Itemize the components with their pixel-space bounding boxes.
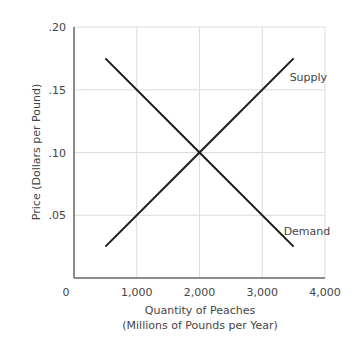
x-axis-label-units: (Millions of Pounds per Year) [122, 319, 278, 332]
y-tick-label: .05 [49, 209, 67, 222]
x-tick-label: 2,000 [184, 286, 216, 299]
x-tick-label: 3,000 [247, 286, 279, 299]
y-tick-label: .10 [49, 147, 67, 160]
series-labels: SupplyDemand [284, 71, 331, 237]
supply-label: Supply [290, 71, 328, 84]
x-tick-label: 4,000 [309, 286, 341, 299]
x-tick-label: 1,000 [121, 286, 153, 299]
y-axis-label: Price (Dollars per Pound) [30, 84, 43, 220]
x-tick-label: 0 [63, 286, 70, 299]
demand-label: Demand [284, 225, 331, 238]
y-tick-label: .20 [49, 21, 67, 34]
y-axis-ticks: .05.10.15.20 [49, 21, 67, 222]
supply-demand-chart: .05.10.15.20 01,0002,0003,0004,000 Suppl… [0, 0, 357, 352]
x-axis-label: Quantity of Peaches [145, 304, 256, 317]
y-tick-label: .15 [49, 84, 67, 97]
x-axis-ticks: 01,0002,0003,0004,000 [63, 286, 341, 299]
